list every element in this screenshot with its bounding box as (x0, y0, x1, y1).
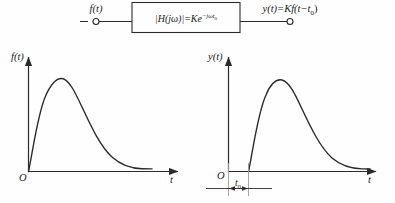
figure-svg: f(t) |H(jω)|=Ke−jωt0 y(t)=Kf(t−t0) f(t) … (0, 0, 395, 203)
input-terminal-node (93, 19, 99, 25)
output-signal-label: y(t)=Kf(t−t0) (262, 3, 319, 17)
figure-canvas: f(t) |H(jω)|=Ke−jωt0 y(t)=Kf(t−t0) f(t) … (0, 0, 395, 203)
t0-label-subscript: 0 (238, 183, 241, 190)
output-plot-x-axis-label: t (368, 174, 372, 185)
input-waveform-plot (29, 57, 179, 172)
output-waveform-curve (249, 80, 371, 172)
transfer-function-exponent: −jωt (202, 12, 215, 19)
input-plot-origin-label: O (19, 172, 27, 183)
output-terminal-node (287, 19, 293, 25)
output-waveform-plot (206, 57, 376, 196)
input-waveform-curve (29, 78, 153, 171)
output-plot-y-axis-label: y(t) (207, 51, 223, 63)
input-plot-y-axis-label: f(t) (11, 51, 24, 63)
input-plot-x-axis-label: t (170, 174, 174, 185)
transfer-function-main: |H(jω)|=Ke (155, 13, 203, 25)
input-signal-label: f(t) (90, 3, 103, 15)
output-signal-main: y(t)=Kf(t−t (262, 3, 312, 15)
t0-dimension-label: t0 (235, 177, 241, 190)
output-signal-tail: ) (314, 3, 318, 15)
output-plot-origin-label: O (217, 170, 225, 181)
